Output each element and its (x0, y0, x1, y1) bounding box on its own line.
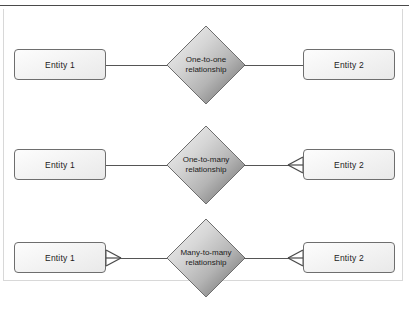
connector-line-right (244, 65, 304, 66)
entity-box-right[interactable]: Entity 2 (303, 49, 395, 80)
relationship-diamond-one-to-one[interactable]: One-to-one relationship (166, 25, 246, 105)
connector-line-left (121, 258, 168, 259)
connector-line-right (244, 258, 290, 259)
crowsfoot-icon-right (287, 156, 304, 174)
relationship-row-many-to-many: Entity 1 (0, 210, 409, 306)
entity-box-left[interactable]: Entity 1 (14, 49, 106, 80)
connector-line-left (106, 165, 168, 166)
relationship-row-one-to-many: Entity 1 (0, 117, 409, 213)
diamond-shape (166, 25, 246, 105)
diamond-shape (166, 125, 246, 205)
entity-label: Entity 1 (45, 253, 75, 263)
entity-box-right[interactable]: Entity 2 (303, 149, 395, 180)
top-divider-rule (0, 5, 409, 6)
entity-label: Entity 1 (45, 160, 75, 170)
entity-label: Entity 2 (334, 253, 364, 263)
relationship-row-one-to-one: Entity 1 (0, 17, 409, 113)
relationship-diamond-many-to-many[interactable]: Many-to-many relationship (166, 218, 246, 298)
entity-box-right[interactable]: Entity 2 (303, 242, 395, 273)
crowsfoot-icon-right (287, 249, 304, 267)
connector-line-right (244, 165, 290, 166)
diamond-shape (166, 218, 246, 298)
entity-box-left[interactable]: Entity 1 (14, 149, 106, 180)
connector-line-left (106, 65, 168, 66)
entity-label: Entity 1 (45, 60, 75, 70)
crowsfoot-icon-left (105, 249, 122, 267)
entity-label: Entity 2 (334, 160, 364, 170)
entity-box-left[interactable]: Entity 1 (14, 242, 106, 273)
relationship-diamond-one-to-many[interactable]: One-to-many relationship (166, 125, 246, 205)
entity-label: Entity 2 (334, 60, 364, 70)
er-diagram-canvas: Entity 1 (0, 0, 409, 320)
